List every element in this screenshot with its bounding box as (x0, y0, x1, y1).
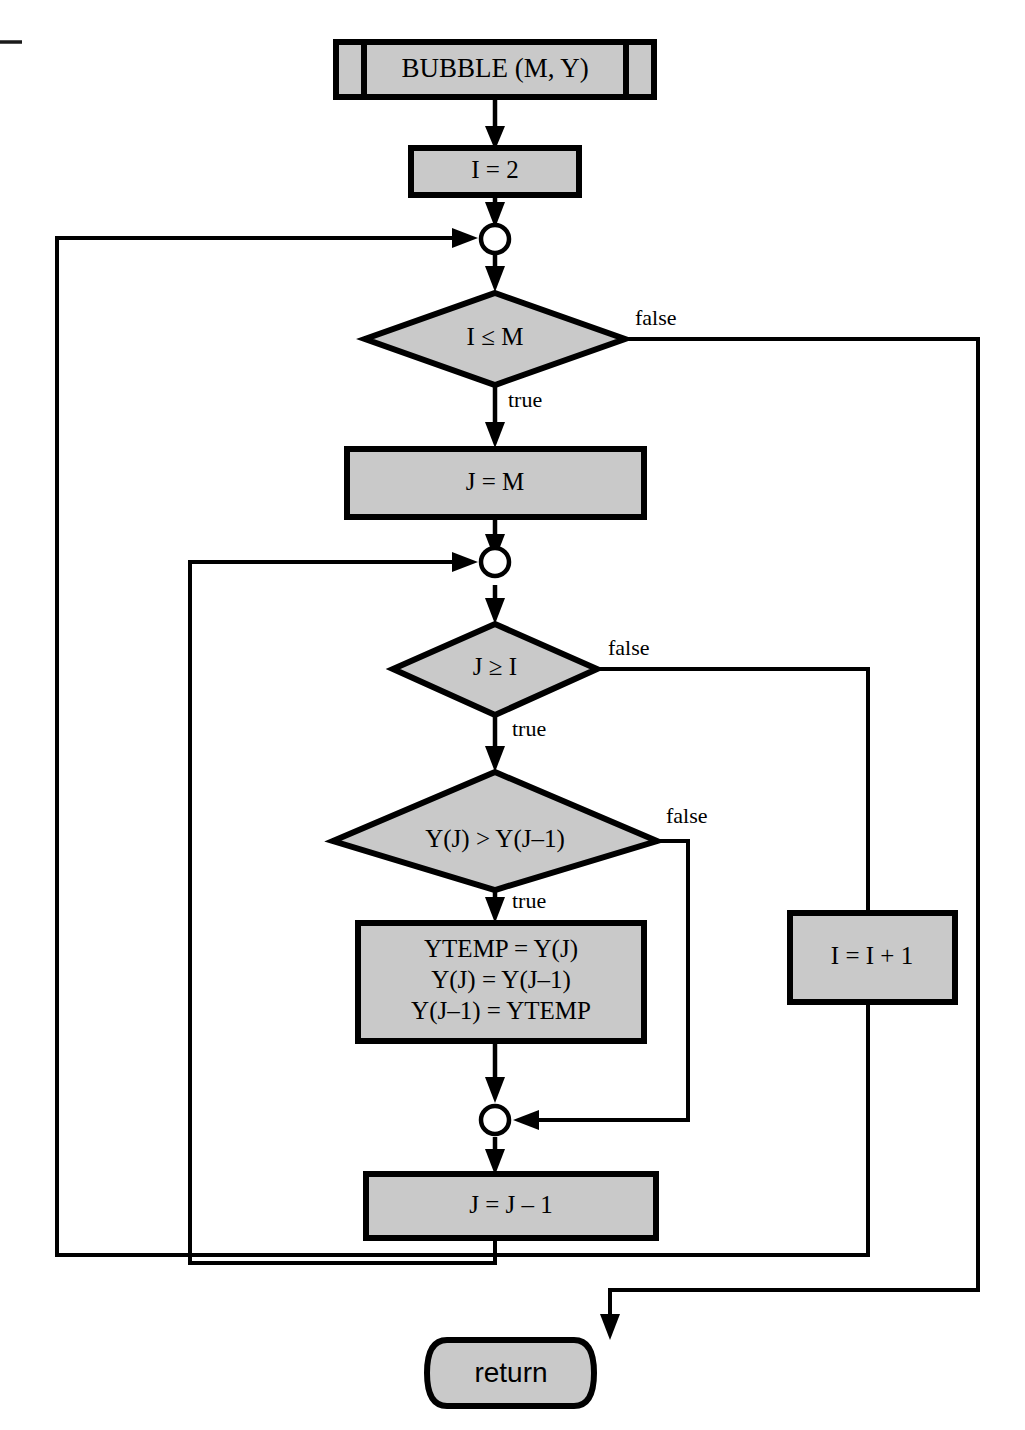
edge-increment-i-to-merge-outer (57, 238, 868, 1255)
node-assign-j[interactable]: J = M (347, 449, 644, 517)
arrow-head-outer-loop (452, 228, 478, 248)
decision-j-label: J ≥ I (473, 653, 517, 680)
edge-decision-j-false (597, 669, 868, 913)
swap-line-2: Y(J) = Y(J–1) (431, 966, 571, 994)
arrow-head-compare-false (513, 1110, 539, 1130)
node-swap-block[interactable]: YTEMP = Y(J) Y(J) = Y(J–1) Y(J–1) = YTEM… (358, 923, 644, 1041)
return-terminal-label: return (474, 1357, 547, 1388)
increment-i-label: I = I + 1 (831, 942, 913, 969)
node-subroutine-header[interactable]: BUBBLE (M, Y) (336, 42, 654, 97)
node-decrement-j[interactable]: J = J – 1 (366, 1174, 656, 1238)
edge-label-compare-true: true (512, 888, 546, 913)
init-i-label: I = 2 (471, 156, 518, 183)
node-return-terminal[interactable]: return (427, 1340, 594, 1406)
edge-label-j-true: true (512, 716, 546, 741)
edge-decision-i-false (610, 339, 978, 1325)
decision-i-label: I ≤ M (467, 323, 524, 350)
node-increment-i[interactable]: I = I + 1 (790, 913, 955, 1002)
flowchart-svg: BUBBLE (M, Y) I = 2 I ≤ M false true J =… (0, 0, 1025, 1430)
decision-compare-label: Y(J) > Y(J–1) (425, 825, 565, 853)
node-decision-compare[interactable]: Y(J) > Y(J–1) false true (333, 772, 708, 913)
merge-inner-circle (481, 548, 509, 576)
edge-label-j-false: false (608, 635, 650, 660)
merge-outer-circle (481, 225, 509, 253)
node-merge-swap[interactable] (481, 1106, 509, 1134)
arrow-head-compare-true (485, 897, 505, 923)
arrow-head-decision-j-true (485, 746, 505, 772)
swap-line-1: YTEMP = Y(J) (424, 935, 578, 963)
subroutine-header-label: BUBBLE (M, Y) (401, 53, 588, 83)
arrow-head-merge-to-decision-i (485, 266, 505, 292)
node-decision-i-le-m[interactable]: I ≤ M false true (365, 293, 677, 412)
edge-label-i-true: true (508, 387, 542, 412)
edge-label-i-false: false (635, 305, 677, 330)
merge-swap-circle (481, 1106, 509, 1134)
node-init-i[interactable]: I = 2 (411, 148, 579, 195)
arrow-head-swap-to-merge (485, 1077, 505, 1103)
assign-j-label: J = M (466, 468, 525, 495)
edge-label-compare-false: false (666, 803, 708, 828)
arrow-head-decision-i-true (485, 422, 505, 448)
node-merge-outer[interactable] (481, 225, 509, 253)
node-merge-inner[interactable] (481, 548, 509, 576)
swap-line-3: Y(J–1) = YTEMP (411, 997, 591, 1025)
arrow-head-inner-loop (452, 552, 478, 572)
node-decision-j-ge-i[interactable]: J ≥ I false true (393, 624, 650, 741)
arrow-head-to-return (600, 1314, 620, 1340)
arrow-head-merge-to-decision-j (485, 598, 505, 624)
flowchart-canvas: BUBBLE (M, Y) I = 2 I ≤ M false true J =… (0, 0, 1025, 1430)
decrement-j-label: J = J – 1 (469, 1191, 553, 1218)
